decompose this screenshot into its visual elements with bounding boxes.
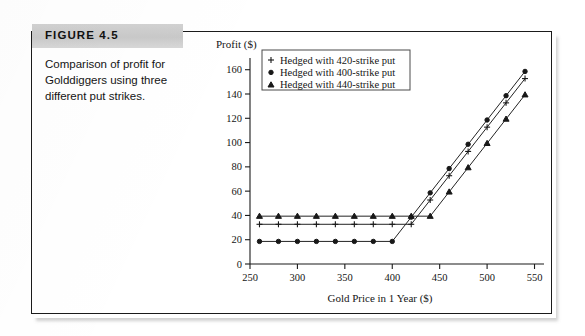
series-line-path <box>259 95 525 216</box>
chart-area: Profit ($) Gold Price in 1 Year ($) 0204… <box>210 34 550 312</box>
legend-item: Hedged with 400-strike put <box>269 67 395 78</box>
x-tick-group: 250300350400450500550 <box>242 264 542 283</box>
x-tick-label: 500 <box>479 272 495 283</box>
figure-number-label: FIGURE 4.5 <box>45 29 119 41</box>
figure-caption-text: Comparison of profit for Golddiggers usi… <box>45 56 185 104</box>
profit-chart: Profit ($) Gold Price in 1 Year ($) 0204… <box>210 34 550 312</box>
series-marker-dot <box>466 142 470 146</box>
y-axis-title: Profit ($) <box>216 38 257 51</box>
series-marker-plus <box>389 221 395 227</box>
series-marker-dot <box>257 239 261 243</box>
y-tick-group: 020406080100120140160 <box>226 64 250 269</box>
y-tick-label: 0 <box>237 259 242 270</box>
series-marker-dot <box>390 239 394 243</box>
series-3 <box>256 92 528 219</box>
legend-item-label: Hedged with 440-strike put <box>280 79 395 90</box>
y-tick-label: 120 <box>226 113 242 124</box>
series-marker-dot <box>523 69 527 73</box>
y-tick-label: 160 <box>226 64 242 75</box>
series-marker-plus <box>294 221 300 227</box>
series-marker-dot <box>371 239 375 243</box>
series-marker-dot <box>333 239 337 243</box>
series-marker-plus <box>351 221 357 227</box>
legend-item-label: Hedged with 420-strike put <box>280 55 395 66</box>
x-tick-label: 300 <box>290 272 306 283</box>
x-tick-label: 450 <box>432 272 448 283</box>
series-marker-dot <box>504 94 508 98</box>
legend-item-label: Hedged with 400-strike put <box>280 67 395 78</box>
series-line-path <box>259 79 525 225</box>
series-marker-plus <box>275 221 281 227</box>
series-group <box>256 69 528 243</box>
y-tick-label: 140 <box>226 89 242 100</box>
x-axis-title: Gold Price in 1 Year ($) <box>327 292 432 305</box>
series-marker-dot <box>276 239 280 243</box>
y-tick-label: 40 <box>232 210 243 221</box>
series-marker-plus <box>313 221 319 227</box>
series-marker-dot <box>485 118 489 122</box>
series-marker-plus <box>332 221 338 227</box>
series-marker-triangle <box>522 92 528 97</box>
series-marker-dot <box>447 166 451 170</box>
series-marker-plus <box>256 221 262 227</box>
legend-item: Hedged with 440-strike put <box>268 79 395 90</box>
series-marker-dot <box>295 239 299 243</box>
x-tick-label: 550 <box>527 272 543 283</box>
y-tick-label: 100 <box>226 137 242 148</box>
series-marker-dot <box>352 239 356 243</box>
x-tick-label: 350 <box>337 272 353 283</box>
y-tick-label: 20 <box>232 234 243 245</box>
x-tick-label: 250 <box>242 272 258 283</box>
series-marker-dot <box>314 239 318 243</box>
series-1 <box>256 76 528 228</box>
y-tick-label: 80 <box>232 161 243 172</box>
legend-item: Hedged with 420-strike put <box>268 55 395 66</box>
x-tick-label: 400 <box>384 272 400 283</box>
series-marker-plus <box>370 221 376 227</box>
y-tick-label: 60 <box>232 186 243 197</box>
series-marker-dot <box>269 70 273 74</box>
series-marker-dot <box>428 191 432 195</box>
chart-legend: Hedged with 420-strike putHedged with 40… <box>262 50 410 90</box>
